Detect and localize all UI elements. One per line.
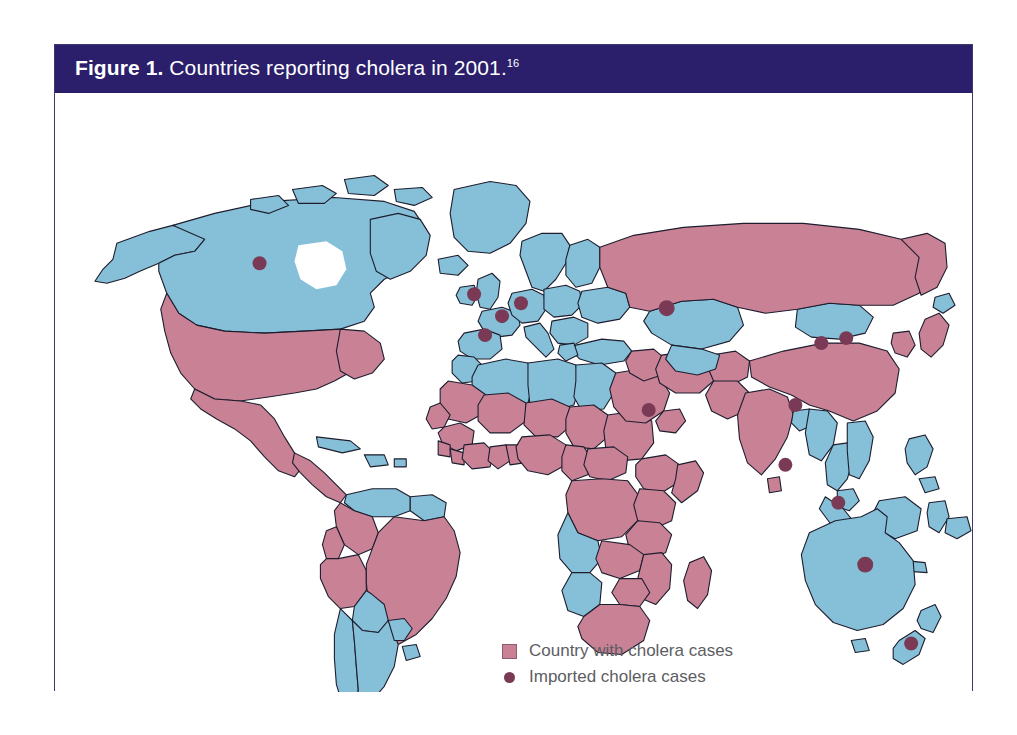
country-japan-north <box>933 293 955 313</box>
imported-case-dot-spain <box>478 328 492 342</box>
country-madagascar <box>684 557 712 609</box>
figure-title: Figure 1. Countries reporting cholera in… <box>75 56 519 80</box>
figure-caption-text: Countries reporting cholera in 2001. <box>169 56 506 79</box>
arctic-islands-3 <box>394 187 432 205</box>
legend-dot-icon <box>504 672 515 683</box>
region-ukraine <box>578 287 630 323</box>
map-legend: Country with cholera cases Imported chol… <box>502 638 802 690</box>
country-egypt <box>574 363 616 411</box>
country-canada-labrador <box>370 213 430 279</box>
country-korea <box>891 331 915 357</box>
country-turkey <box>572 339 632 365</box>
country-chad <box>566 405 608 449</box>
region-poland-baltics <box>544 285 582 317</box>
figure-number-label: Figure 1. <box>75 56 163 79</box>
legend-label-country-cases: Country with cholera cases <box>529 641 733 661</box>
country-sri-lanka <box>767 477 781 493</box>
imported-case-dot-malaysia <box>778 458 792 472</box>
region-scandinavia <box>520 233 570 291</box>
country-papua-new-guinea <box>945 517 971 539</box>
country-philippines <box>905 435 933 475</box>
country-italy <box>524 323 554 357</box>
country-mongolia <box>795 303 873 339</box>
imported-case-dot-france <box>495 309 509 323</box>
imported-case-dot-korea <box>814 336 828 350</box>
world-map: .c-rep{fill:#c98295;stroke:#1d1d2e;strok… <box>55 93 972 692</box>
region-guianas <box>410 495 446 521</box>
country-uruguay <box>402 644 420 660</box>
country-united-states-east <box>336 329 384 379</box>
figure-reference-superscript: 16 <box>507 57 519 69</box>
imported-case-dot-japan <box>839 331 853 345</box>
country-vietnam <box>847 421 873 479</box>
imported-case-dot-new-zealand <box>904 636 918 650</box>
legend-swatch-icon <box>502 644 517 659</box>
world-map-svg: .c-rep{fill:#c98295;stroke:#1d1d2e;strok… <box>55 93 972 692</box>
country-niger <box>524 399 572 437</box>
territory-greenland <box>450 181 530 253</box>
island-cuba <box>316 437 360 453</box>
country-philippines-south <box>919 477 939 493</box>
imported-case-dot-australia <box>857 557 873 573</box>
country-greece <box>558 343 578 361</box>
country-zimbabwe <box>612 579 650 607</box>
imported-case-dot-united-arab-emirates <box>642 403 656 417</box>
country-central-african-republic <box>584 447 628 481</box>
imported-case-dot-kazakhstan <box>659 300 675 316</box>
imported-case-dot-canada <box>253 256 267 270</box>
region-central-america <box>292 453 346 503</box>
arctic-islands-2 <box>344 175 388 195</box>
legend-item-imported-cases: Imported cholera cases <box>502 664 802 690</box>
legend-item-country-cases: Country with cholera cases <box>502 638 802 664</box>
island-puerto-rico <box>394 459 406 467</box>
region-balkans <box>550 317 588 345</box>
country-new-zealand-north <box>917 605 941 633</box>
country-mali <box>478 393 526 433</box>
imported-case-dot-indonesia <box>831 496 845 510</box>
legend-label-imported-cases: Imported cholera cases <box>529 667 706 687</box>
figure-container: Figure 1. Countries reporting cholera in… <box>54 44 973 691</box>
country-nigeria <box>516 435 566 475</box>
island-hispaniola <box>364 455 388 467</box>
country-mexico <box>191 389 303 477</box>
map-landmasses <box>95 175 971 692</box>
country-japan <box>919 313 949 357</box>
imported-case-dot-germany <box>514 296 528 310</box>
island-tasmania <box>851 638 869 652</box>
country-russia <box>600 223 931 313</box>
figure-title-bar: Figure 1. Countries reporting cholera in… <box>55 45 972 93</box>
country-finland <box>566 239 600 287</box>
imported-case-dot-united-kingdom <box>467 287 481 301</box>
imported-case-dot-vietnam <box>788 398 802 412</box>
country-iceland <box>438 255 468 275</box>
